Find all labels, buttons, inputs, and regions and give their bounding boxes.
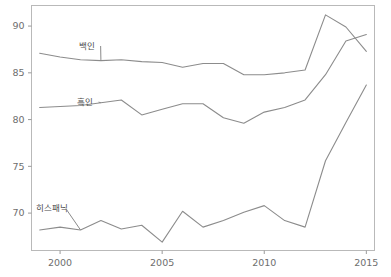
y-axis-tick-label: 90 xyxy=(12,20,24,31)
y-axis-tick-label: 75 xyxy=(12,161,24,172)
chart-canvas: 20002005201020157075808590백인흑인히스패닉 xyxy=(0,0,391,277)
series-line-히스패닉 xyxy=(40,85,367,242)
series-label-백인: 백인 xyxy=(79,41,95,51)
x-axis-tick-label: 2015 xyxy=(354,257,378,268)
x-axis-tick-label: 2010 xyxy=(252,257,276,268)
y-axis-tick-label: 70 xyxy=(12,207,24,218)
line-chart-figure: 20002005201020157075808590백인흑인히스패닉 xyxy=(0,0,391,277)
x-axis-tick-label: 2000 xyxy=(48,257,72,268)
series-label-흑인: 흑인 xyxy=(77,97,93,107)
y-axis-tick-label: 85 xyxy=(12,67,24,78)
series-label-leader-히스패닉 xyxy=(66,209,81,230)
series-label-leader-흑인 xyxy=(99,102,101,103)
y-axis-tick-label: 80 xyxy=(12,114,24,125)
series-label-히스패닉: 히스패닉 xyxy=(36,203,68,213)
x-axis-tick-label: 2005 xyxy=(150,257,174,268)
